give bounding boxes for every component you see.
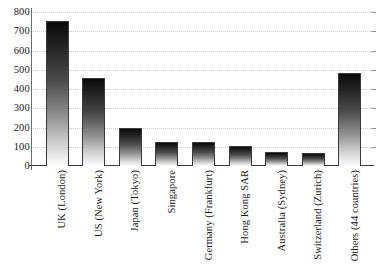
bar-chart: 0100200300400500600700800 UK (London)US … bbox=[0, 0, 376, 278]
x-axis-label-slot: US (New York) bbox=[76, 168, 113, 278]
bar[interactable] bbox=[155, 142, 178, 166]
bar-slot bbox=[332, 12, 369, 166]
bar-slot bbox=[112, 12, 149, 166]
bar[interactable] bbox=[229, 146, 252, 166]
y-axis-tick-label: 400 bbox=[14, 84, 30, 95]
bar-slot bbox=[39, 12, 76, 166]
x-axis-category-label: Japan (Tokyo) bbox=[130, 170, 141, 232]
x-axis-category-labels: UK (London)US (New York)Japan (Tokyo)Sin… bbox=[33, 168, 372, 278]
bar[interactable] bbox=[265, 152, 288, 166]
y-axis-tick-label: 500 bbox=[14, 65, 30, 76]
bar-slot bbox=[76, 12, 113, 166]
y-axis-tick-label: 800 bbox=[14, 7, 30, 18]
x-axis-category-label: Singapore bbox=[167, 170, 178, 213]
y-axis-tick-label: 200 bbox=[14, 122, 30, 133]
x-axis-label-slot: Germany (Frankfurt) bbox=[185, 168, 222, 278]
x-axis-label-slot: Switzerland (Zurich) bbox=[295, 168, 332, 278]
x-axis-label-slot: Japan (Tokyo) bbox=[112, 168, 149, 278]
bar[interactable] bbox=[302, 153, 325, 166]
x-axis-category-label: Switzerland (Zurich) bbox=[313, 170, 324, 260]
bar-slot bbox=[295, 12, 332, 166]
bar[interactable] bbox=[119, 128, 142, 166]
bar-slot bbox=[258, 12, 295, 166]
x-axis-category-label: Hong Kong SAR bbox=[240, 170, 251, 244]
y-axis-tick-label: 300 bbox=[14, 103, 30, 114]
bar[interactable] bbox=[192, 142, 215, 166]
x-axis-category-label: UK (London) bbox=[57, 170, 68, 229]
y-axis-tick-label: 600 bbox=[14, 45, 30, 56]
y-axis-line bbox=[31, 8, 32, 170]
bar-slot bbox=[222, 12, 259, 166]
y-axis-tick-label: 700 bbox=[14, 26, 30, 37]
y-axis-tick-label: 100 bbox=[14, 142, 30, 153]
x-axis-label-slot: Singapore bbox=[149, 168, 186, 278]
x-axis-label-slot: Australia (Sydney) bbox=[258, 168, 295, 278]
bar[interactable] bbox=[338, 73, 361, 166]
bar-slot bbox=[149, 12, 186, 166]
x-axis-label-slot: Others (44 countries) bbox=[332, 168, 369, 278]
bar[interactable] bbox=[46, 21, 69, 166]
bar-slot bbox=[185, 12, 222, 166]
x-axis-category-label: Germany (Frankfurt) bbox=[204, 170, 215, 260]
x-axis-label-slot: Hong Kong SAR bbox=[222, 168, 259, 278]
bar-series bbox=[33, 12, 372, 166]
y-axis-tick-label: 0 bbox=[25, 161, 30, 172]
bar[interactable] bbox=[82, 78, 105, 166]
y-axis-tick-labels: 0100200300400500600700800 bbox=[0, 0, 30, 278]
x-axis-category-label: Others (44 countries) bbox=[350, 170, 361, 261]
x-axis-category-label: Australia (Sydney) bbox=[277, 170, 288, 251]
x-axis-label-slot: UK (London) bbox=[39, 168, 76, 278]
plot-area bbox=[33, 12, 372, 166]
x-axis-category-label: US (New York) bbox=[94, 170, 105, 237]
